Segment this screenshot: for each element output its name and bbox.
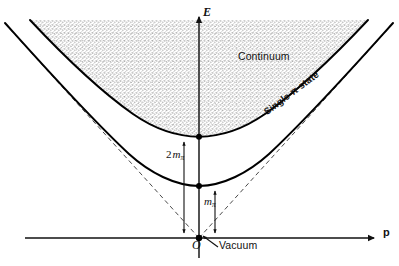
y-axis-label: E: [203, 6, 211, 18]
origin-label: O: [192, 239, 201, 251]
gap-2mpi-subscript: π: [180, 153, 184, 162]
x-axis-label: p: [383, 227, 390, 238]
gap-2mpi-label: 2 mπ: [166, 149, 184, 162]
gap-mpi-label: mπ: [204, 196, 216, 209]
figure-canvas: E p O Vacuum Continuum Single π state 2 …: [0, 0, 399, 266]
dispersion-diagram-svg: [0, 0, 399, 266]
single-pion-vertex-dot: [196, 183, 202, 189]
vacuum-label: Vacuum: [219, 240, 257, 251]
continuum-label: Continuum: [238, 51, 290, 62]
continuum-threshold-vertex-dot: [196, 134, 202, 140]
gap-mpi-subscript: π: [212, 200, 216, 209]
gap-mpi-mass-symbol: m: [204, 195, 212, 207]
